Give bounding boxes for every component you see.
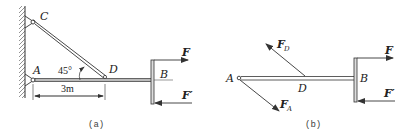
label-d: D bbox=[108, 63, 118, 76]
angle-label: 45° bbox=[58, 65, 72, 76]
label-f-prime: F′ bbox=[181, 89, 193, 102]
label-f: F bbox=[181, 46, 191, 59]
caption-b: (b) bbox=[305, 120, 321, 130]
label-fd: F D bbox=[276, 38, 290, 53]
angle-arc bbox=[79, 67, 84, 80]
label-a-b: A bbox=[225, 72, 234, 85]
beam-ab bbox=[35, 79, 152, 82]
hinge-c-icon bbox=[25, 16, 35, 28]
svg-text:A: A bbox=[286, 105, 292, 113]
label-a: A bbox=[32, 64, 41, 77]
label-b: B bbox=[159, 68, 168, 81]
beam-ab-free-body bbox=[241, 77, 355, 81]
point-a-icon bbox=[237, 76, 241, 80]
label-f-b: F bbox=[384, 44, 394, 57]
label-d-b: D bbox=[297, 82, 307, 95]
label-fa: F A bbox=[279, 98, 292, 113]
caption-a: (a) bbox=[88, 120, 104, 130]
figure-b: A D B F D F A F F′ (b) bbox=[225, 38, 395, 130]
label-f-prime-b: F′ bbox=[383, 87, 395, 100]
dimension-label: 3m bbox=[61, 83, 74, 94]
figure-a: 45° 3m C A D B F F′ (a) bbox=[19, 6, 193, 130]
plate-b bbox=[151, 60, 154, 104]
label-c: C bbox=[40, 10, 49, 23]
statics-diagram: 45° 3m C A D B F F′ (a) bbox=[0, 0, 411, 137]
svg-text:D: D bbox=[283, 45, 290, 53]
label-b-b: B bbox=[359, 72, 368, 85]
plate-b-free-body bbox=[354, 58, 357, 102]
force-fa-arrow bbox=[240, 80, 279, 111]
wall-hatching bbox=[19, 6, 25, 98]
